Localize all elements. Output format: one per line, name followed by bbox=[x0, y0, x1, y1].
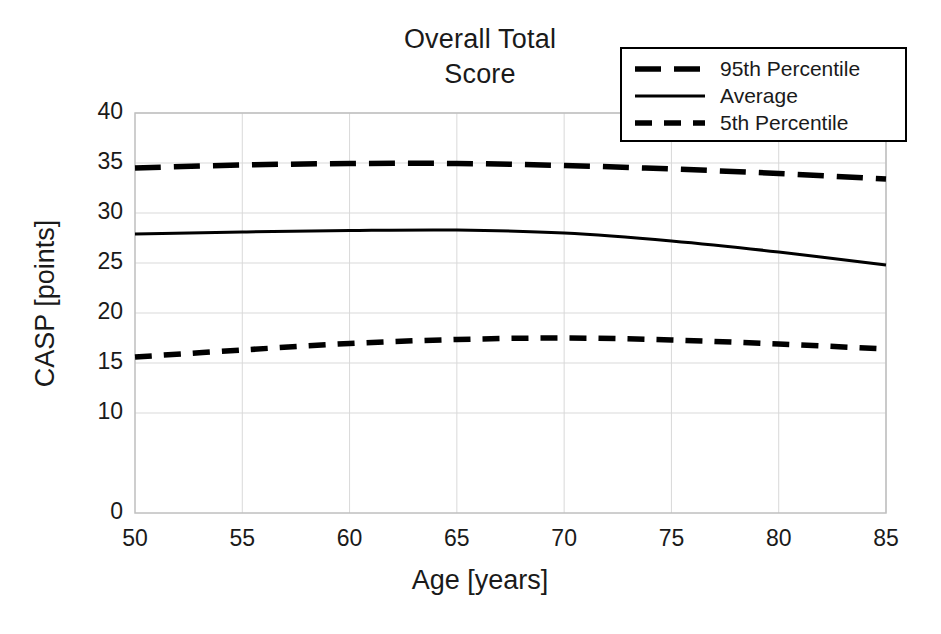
legend-line-icon bbox=[634, 89, 706, 103]
x-tick-label: 50 bbox=[100, 525, 170, 552]
x-tick-label: 70 bbox=[529, 525, 599, 552]
legend-item-label: 5th Percentile bbox=[720, 111, 848, 135]
x-tick-label: 85 bbox=[851, 525, 921, 552]
legend-line-icon bbox=[634, 62, 706, 76]
series-line bbox=[135, 230, 886, 265]
y-tick-label: 20 bbox=[63, 298, 123, 325]
y-tick-label: 15 bbox=[63, 348, 123, 375]
x-tick-label: 55 bbox=[207, 525, 277, 552]
x-tick-label: 65 bbox=[422, 525, 492, 552]
y-tick-label: 40 bbox=[63, 98, 123, 125]
y-tick-label: 25 bbox=[63, 248, 123, 275]
x-tick-label: 80 bbox=[744, 525, 814, 552]
y-tick-label: 30 bbox=[63, 198, 123, 225]
series-line bbox=[135, 338, 886, 357]
legend-line-icon bbox=[634, 116, 706, 130]
series-line bbox=[135, 163, 886, 179]
legend-item-label: 95th Percentile bbox=[720, 57, 860, 81]
legend-item[interactable]: Average bbox=[622, 82, 905, 109]
y-axis-title: CASP [points] bbox=[30, 189, 61, 419]
legend-item[interactable]: 95th Percentile bbox=[622, 55, 905, 82]
y-tick-label: 10 bbox=[63, 398, 123, 425]
y-tick-label: 35 bbox=[63, 148, 123, 175]
x-tick-label: 60 bbox=[315, 525, 385, 552]
chart-figure: Overall Total Score 010152025303540 5055… bbox=[0, 0, 941, 634]
chart-legend: 95th PercentileAverage5th Percentile bbox=[620, 47, 907, 142]
x-axis-title: Age [years] bbox=[330, 565, 630, 596]
legend-item-label: Average bbox=[720, 84, 798, 108]
legend-item[interactable]: 5th Percentile bbox=[622, 109, 905, 136]
y-tick-label: 0 bbox=[63, 498, 123, 525]
x-tick-label: 75 bbox=[636, 525, 706, 552]
data-series-group bbox=[135, 163, 886, 357]
